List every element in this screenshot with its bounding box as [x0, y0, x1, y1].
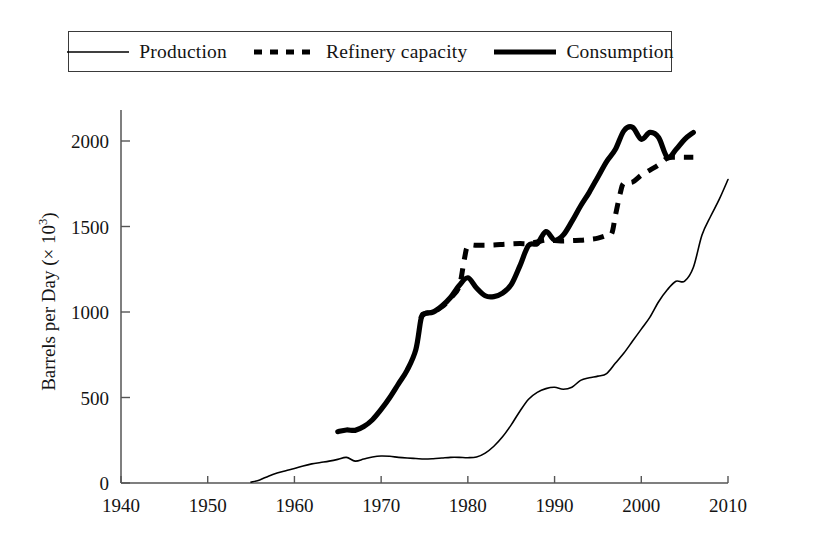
legend-entry-consumption: Consumption — [480, 41, 686, 63]
x-axis-tick-label: 1970 — [362, 495, 400, 516]
chart-figure: Production Refinery capacity Consumption… — [0, 0, 815, 550]
x-axis-tick-label: 1990 — [536, 495, 574, 516]
legend-label-refinery-capacity: Refinery capacity — [326, 41, 467, 63]
y-axis-title-exponent: 3 — [36, 219, 50, 225]
x-axis-tick-label: 2010 — [709, 495, 747, 516]
x-axis-tick-label: 1960 — [275, 495, 313, 516]
series-line-production — [251, 179, 728, 482]
plot-area: 1940195019601970198019902000201005001000… — [0, 0, 815, 550]
legend-entry-refinery-capacity: Refinery capacity — [240, 41, 480, 63]
legend-entry-production: Production — [53, 41, 240, 63]
axis-layer — [121, 110, 728, 483]
y-axis-title-main: Barrels per Day (× 10 — [38, 225, 59, 391]
y-axis-tick-label: 2000 — [71, 131, 109, 152]
x-axis-tick-label: 1950 — [189, 495, 227, 516]
y-axis-title-tail: ) — [38, 212, 59, 218]
legend-swatch-thin-solid-icon — [66, 46, 130, 58]
y-axis-title: Barrels per Day (× 103) — [36, 162, 59, 442]
x-axis-tick-label: 1980 — [449, 495, 487, 516]
legend-swatch-dashed-icon — [253, 46, 317, 58]
chart-legend: Production Refinery capacity Consumption — [68, 31, 672, 72]
y-axis-tick-label: 1500 — [71, 217, 109, 238]
y-axis-tick-label: 0 — [100, 473, 110, 494]
series-layer — [251, 127, 728, 482]
x-axis-tick-label: 1940 — [102, 495, 140, 516]
legend-label-production: Production — [139, 41, 227, 63]
legend-swatch-thick-solid-icon — [493, 46, 557, 58]
y-axis-tick-label: 500 — [81, 388, 110, 409]
x-axis-tick-label: 2000 — [622, 495, 660, 516]
series-line-consumption — [338, 127, 694, 432]
legend-label-consumption: Consumption — [566, 41, 673, 63]
y-axis-tick-label: 1000 — [71, 302, 109, 323]
legend-entries: Production Refinery capacity Consumption — [69, 32, 671, 71]
